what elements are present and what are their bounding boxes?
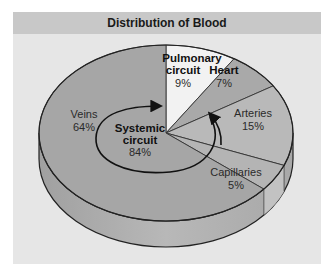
label-systemic: Systemic bbox=[115, 122, 166, 134]
label-heart-pct: 7% bbox=[216, 77, 232, 89]
label-systemic-2: circuit bbox=[123, 134, 158, 146]
label-pulmonary-2: circuit bbox=[166, 64, 201, 76]
label-arteries-pct: 15% bbox=[242, 120, 264, 132]
label-veins: Veins bbox=[71, 108, 98, 120]
label-arteries: Arteries bbox=[234, 107, 272, 119]
label-veins-pct: 64% bbox=[73, 121, 95, 133]
label-heart: Heart bbox=[209, 64, 239, 76]
label-capillaries: Capillaries bbox=[210, 166, 262, 178]
label-pulmonary-pct: 9% bbox=[175, 77, 191, 89]
label-capillaries-pct: 5% bbox=[228, 179, 244, 191]
label-pulmonary: Pulmonary bbox=[162, 52, 222, 64]
pie-chart: Pulmonary circuit 9% Heart 7% Arteries 1… bbox=[0, 0, 330, 276]
label-systemic-pct: 84% bbox=[129, 146, 151, 158]
